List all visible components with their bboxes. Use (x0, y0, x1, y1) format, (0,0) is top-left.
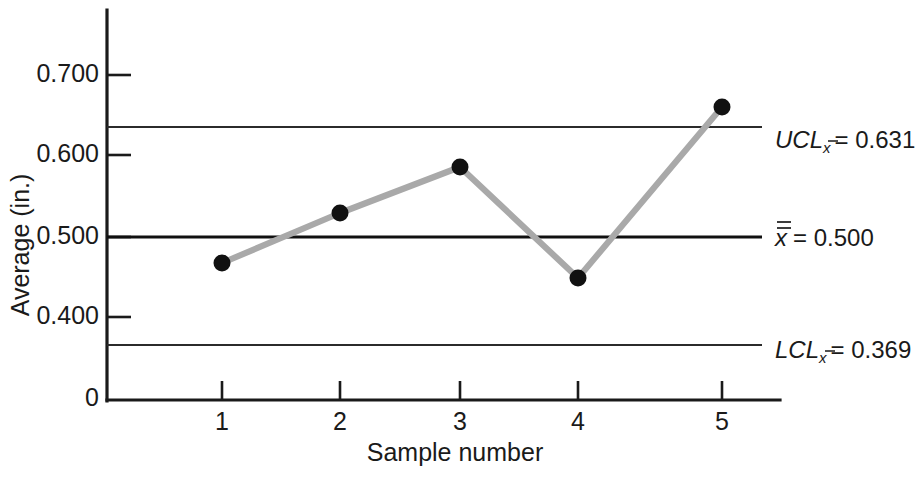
y-axis-ticks (107, 75, 131, 317)
lcl-symbol: LCL (775, 336, 819, 363)
y-tick-label-0400: 0.400 (36, 301, 99, 329)
x-tick-label-2: 2 (333, 407, 347, 435)
axes-group (107, 10, 780, 401)
y-axis-title: Average (in.) (6, 174, 34, 317)
x-axis-title: Sample number (367, 438, 543, 466)
ucl-equals-value: = 0.631 (835, 126, 916, 153)
ucl-annotation: UCLx= 0.631 (775, 126, 915, 156)
y-tick-label-origin: 0 (85, 383, 99, 411)
center-equals-value: = 0.500 (793, 224, 874, 251)
data-point-3 (452, 159, 469, 176)
y-tick-label-0600: 0.600 (36, 139, 99, 167)
sample-average-line (222, 107, 722, 278)
x-tick-label-3: 3 (453, 407, 467, 435)
x-axis-ticks (222, 381, 722, 400)
y-tick-label-0500: 0.500 (36, 221, 99, 249)
x-tick-label-4: 4 (571, 407, 585, 435)
y-tick-label-0700: 0.700 (36, 59, 99, 87)
chart-canvas: 0.700 0.600 0.500 0.400 0 Average (in.) (0, 0, 924, 481)
control-chart-figure: 0.700 0.600 0.500 0.400 0 Average (in.) (0, 0, 924, 481)
lcl-annotation-text: LCLx= 0.369 (775, 336, 911, 366)
data-point-4 (570, 270, 587, 287)
lcl-annotation: LCLx= 0.369 (775, 336, 911, 366)
lcl-equals-value: = 0.369 (831, 336, 912, 363)
ucl-annotation-text: UCLx= 0.631 (775, 126, 915, 156)
x-tick-label-5: 5 (715, 407, 729, 435)
x-axis-tick-labels: 1 2 3 4 5 (215, 407, 729, 435)
y-axis-title-group: Average (in.) (6, 174, 34, 317)
control-limit-lines (107, 127, 762, 345)
data-point-2 (332, 205, 349, 222)
data-point-5 (714, 99, 731, 116)
center-annotation: x= 0.500 (774, 222, 874, 251)
y-axis-tick-labels: 0.700 0.600 0.500 0.400 0 (36, 59, 99, 411)
ucl-symbol: UCL (775, 126, 823, 153)
x-tick-label-1: 1 (215, 407, 229, 435)
data-point-1 (214, 255, 231, 272)
